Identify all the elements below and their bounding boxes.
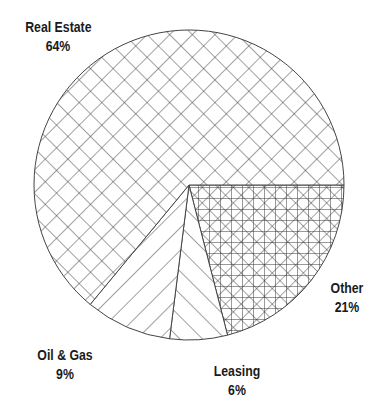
label-oil-gas-name: Oil & Gas xyxy=(34,345,96,364)
label-leasing-pct: 6% xyxy=(211,380,263,399)
label-real-estate-name: Real Estate xyxy=(25,17,91,36)
label-other-pct: 21% xyxy=(327,297,368,316)
label-other-name: Other xyxy=(327,278,368,297)
label-real-estate-pct: 64% xyxy=(25,36,91,55)
label-oil-gas: Oil & Gas 9% xyxy=(34,345,96,383)
label-leasing: Leasing 6% xyxy=(211,361,263,399)
label-real-estate: Real Estate 64% xyxy=(25,17,91,55)
label-oil-gas-pct: 9% xyxy=(34,364,96,383)
label-other: Other 21% xyxy=(327,278,368,316)
label-leasing-name: Leasing xyxy=(211,361,263,380)
